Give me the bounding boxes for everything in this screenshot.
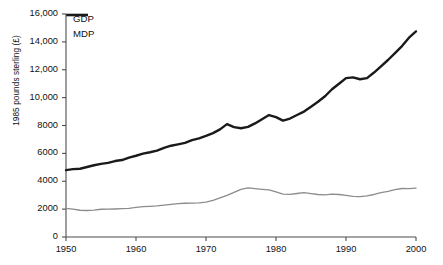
y-tick-label: 2000 [0, 203, 58, 213]
series-line-gdp [66, 188, 416, 211]
y-tick-label: 8000 [0, 120, 58, 130]
y-tick-label: 12,000 [0, 64, 58, 74]
series-line-mdp [66, 31, 416, 170]
x-tick-label: 1980 [246, 244, 306, 254]
y-tick-label: 4000 [0, 175, 58, 185]
x-tick-label: 2000 [386, 244, 443, 254]
y-tick-label: 0 [0, 231, 58, 241]
y-tick-label: 16,000 [0, 8, 58, 18]
chart-container: 1985 pounds sterling (£) GDP MDP 0200040… [0, 0, 443, 265]
line-plot [0, 0, 443, 265]
y-tick-label: 10,000 [0, 92, 58, 102]
x-tick-label: 1950 [36, 244, 96, 254]
x-tick-label: 1970 [176, 244, 236, 254]
y-tick-label: 6000 [0, 147, 58, 157]
x-tick-label: 1990 [316, 244, 376, 254]
y-tick-label: 14,000 [0, 36, 58, 46]
x-tick-label: 1960 [106, 244, 166, 254]
